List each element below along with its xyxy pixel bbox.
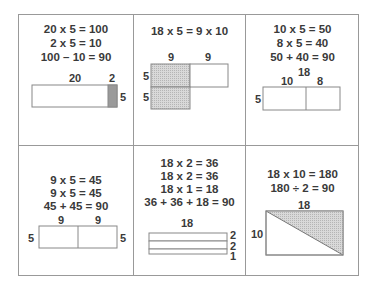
cell4-label-9b: 9: [95, 214, 101, 226]
cell1-bar: [32, 85, 117, 107]
cell2-equation-1: 18 x 5 = 9 x 10: [134, 24, 245, 38]
cell3-label-10: 10: [281, 75, 293, 87]
cell5-equation-4: 36 + 36 + 18 = 90: [134, 195, 245, 209]
cell5-equation-1: 18 x 2 = 36: [134, 156, 245, 170]
cell6-equation-2: 180 ÷ 2 = 90: [246, 181, 359, 195]
cell3-label-8: 8: [317, 75, 323, 87]
cell3-label-18: 18: [298, 66, 310, 78]
cell5-label-18: 18: [181, 217, 193, 229]
cell4-label-9a: 9: [58, 214, 64, 226]
cell4-label-5-left: 5: [28, 232, 34, 244]
cell5-label-1: 1: [230, 250, 236, 262]
cell6-triangle-rect: [266, 211, 343, 255]
cell5-equation-3: 18 x 1 = 18: [134, 182, 245, 196]
cell1-equation-1: 20 x 5 = 100: [33, 22, 119, 36]
cell6-label-10: 10: [251, 228, 263, 240]
cell1-equation-3: 100 – 10 = 90: [33, 50, 119, 64]
cell1-label-2: 2: [109, 72, 115, 84]
cell6-label-18: 18: [298, 199, 310, 211]
cell6-equation-1: 18 x 10 = 180: [246, 167, 359, 181]
cell3-equation-2: 8 x 5 = 40: [246, 36, 359, 50]
cell2-label-9a: 9: [168, 51, 174, 63]
cell2-rectangles: [151, 64, 228, 109]
cell3-equation-1: 10 x 5 = 50: [246, 22, 359, 36]
cell3-equation-3: 50 + 40 = 90: [246, 50, 359, 64]
cell4-equation-1: 9 x 5 = 45: [19, 173, 133, 187]
cell1-equation-2: 2 x 5 = 10: [33, 36, 119, 50]
cell4-equation-3: 45 + 45 = 90: [19, 199, 133, 213]
cell4-label-5-right: 5: [120, 232, 126, 244]
cell1-label-20: 20: [69, 72, 81, 84]
cell3-rectangle: [263, 87, 340, 110]
cell5-equation-2: 18 x 2 = 36: [134, 169, 245, 183]
cell3-label-5: 5: [255, 93, 261, 105]
cell2-label-5a: 5: [143, 70, 149, 82]
cell1-label-5: 5: [120, 91, 126, 103]
cell4-rectangle: [39, 226, 117, 248]
cell2-label-9b: 9: [205, 51, 211, 63]
cell2-label-5b: 5: [143, 91, 149, 103]
cell4-equation-2: 9 x 5 = 45: [19, 186, 133, 200]
cell5-strips: [149, 233, 227, 254]
